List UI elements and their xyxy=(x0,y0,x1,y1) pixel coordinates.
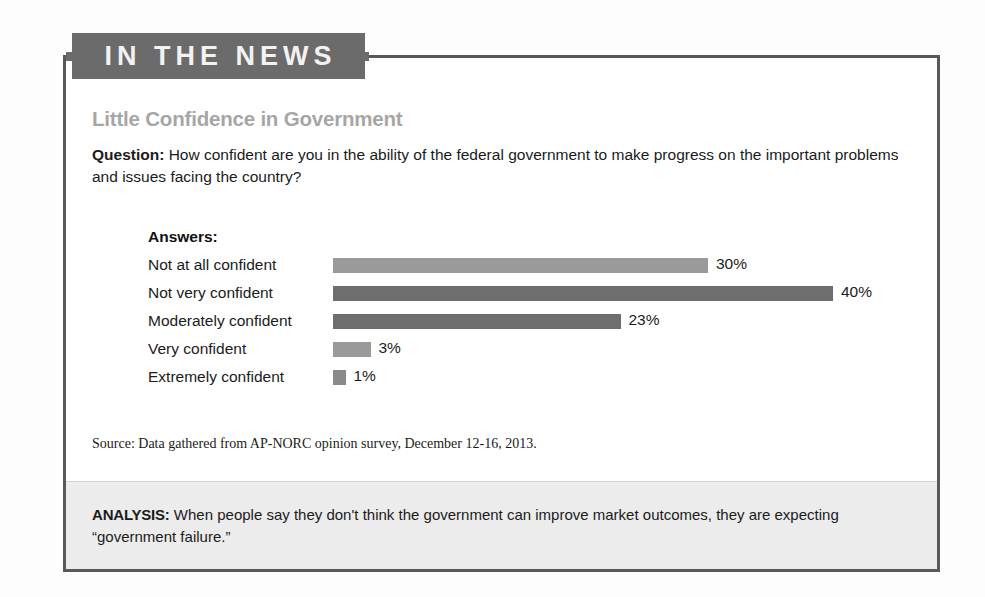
bar-row: Very confident3% xyxy=(148,338,908,366)
news-header-tab: IN THE NEWS xyxy=(72,33,365,79)
bar-value-label: 23% xyxy=(629,311,660,329)
bar-fill xyxy=(333,258,708,273)
bar-chart: Not at all confident30%Not very confiden… xyxy=(148,254,908,394)
bar-category-label: Moderately confident xyxy=(148,312,333,330)
bar-track: 1% xyxy=(333,366,908,394)
source-line: Source: Data gathered from AP-NORC opini… xyxy=(92,436,537,452)
bar-row: Extremely confident1% xyxy=(148,366,908,394)
bar-value-label: 30% xyxy=(716,255,747,273)
bar-fill xyxy=(333,342,371,357)
question-label: Question: xyxy=(92,146,164,163)
bar-category-label: Not very confident xyxy=(148,284,333,302)
news-header-tab-label: IN THE NEWS xyxy=(100,43,336,70)
bar-track: 3% xyxy=(333,338,908,366)
page-root: Little Confidence in Government Question… xyxy=(0,0,985,597)
bar-fill xyxy=(333,314,621,329)
bar-fill xyxy=(333,286,833,301)
page-title: Little Confidence in Government xyxy=(92,107,402,131)
news-feature-box: Little Confidence in Government Question… xyxy=(63,55,940,572)
analysis-band: ANALYSIS: When people say they don't thi… xyxy=(66,481,937,569)
bar-track: 23% xyxy=(333,310,908,338)
bar-value-label: 40% xyxy=(841,283,872,301)
question-block: Question: How confident are you in the a… xyxy=(92,144,918,188)
bar-row: Moderately confident23% xyxy=(148,310,908,338)
bar-value-label: 3% xyxy=(379,339,401,357)
analysis-text-block: ANALYSIS: When people say they don't thi… xyxy=(92,504,912,548)
bar-category-label: Very confident xyxy=(148,340,333,358)
bar-row: Not at all confident30% xyxy=(148,254,908,282)
bar-track: 40% xyxy=(333,282,908,310)
news-box-content: Little Confidence in Government Question… xyxy=(66,58,937,569)
question-text: How confident are you in the ability of … xyxy=(92,146,898,185)
analysis-label: ANALYSIS: xyxy=(92,506,170,523)
answers-heading: Answers: xyxy=(148,228,218,246)
analysis-body: When people say they don't think the gov… xyxy=(92,506,839,545)
bar-category-label: Not at all confident xyxy=(148,256,333,274)
bar-value-label: 1% xyxy=(354,367,376,385)
bar-row: Not very confident40% xyxy=(148,282,908,310)
bar-category-label: Extremely confident xyxy=(148,368,333,386)
bar-fill xyxy=(333,370,346,385)
bar-track: 30% xyxy=(333,254,908,282)
